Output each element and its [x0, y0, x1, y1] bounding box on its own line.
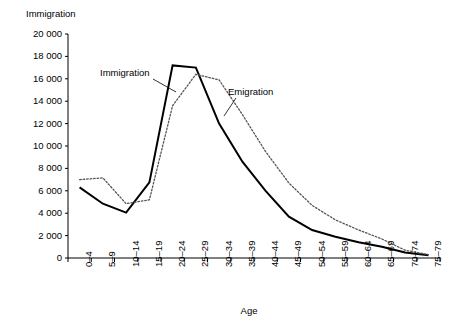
x-axis-tick-label: 50–54 [317, 241, 327, 267]
x-axis-tick-label: 25–29 [200, 241, 210, 267]
x-axis-tick-label: 30–34 [224, 241, 234, 267]
x-axis-tick-label: 60–64 [363, 241, 373, 267]
x-axis-tick-label: 65–69 [386, 241, 396, 267]
leader-line-emigration [224, 98, 236, 116]
x-axis-tick-label: 15–19 [154, 241, 164, 267]
x-axis-title-text: Age [195, 305, 258, 316]
x-axis-tick-label: 45–49 [293, 241, 303, 267]
x-axis-tick-label: 20–24 [177, 241, 187, 267]
series-line-emigration [80, 74, 429, 254]
x-axis-title: Age [0, 305, 452, 316]
x-axis-tick-label: 10–14 [131, 241, 141, 267]
x-axis-tick-label: 70–74 [410, 241, 420, 267]
chart-container: Immigration 02 0004 0006 0008 00010 0001… [0, 0, 452, 325]
x-axis-tick-label: 40–44 [270, 241, 280, 267]
x-axis-tick-label: 75–79 [433, 241, 443, 267]
x-axis-tick-label: 35–39 [247, 241, 257, 267]
series-label-immigration: Immigration [100, 68, 150, 78]
x-axis-tick-label: 5–9 [107, 251, 117, 267]
series-label-emigration: Emigration [228, 87, 273, 97]
x-axis-tick-label: 55–59 [340, 241, 350, 267]
x-axis-tick-label: 0–4 [84, 251, 94, 267]
plot-area [0, 0, 452, 325]
leader-line-immigration [153, 79, 176, 92]
